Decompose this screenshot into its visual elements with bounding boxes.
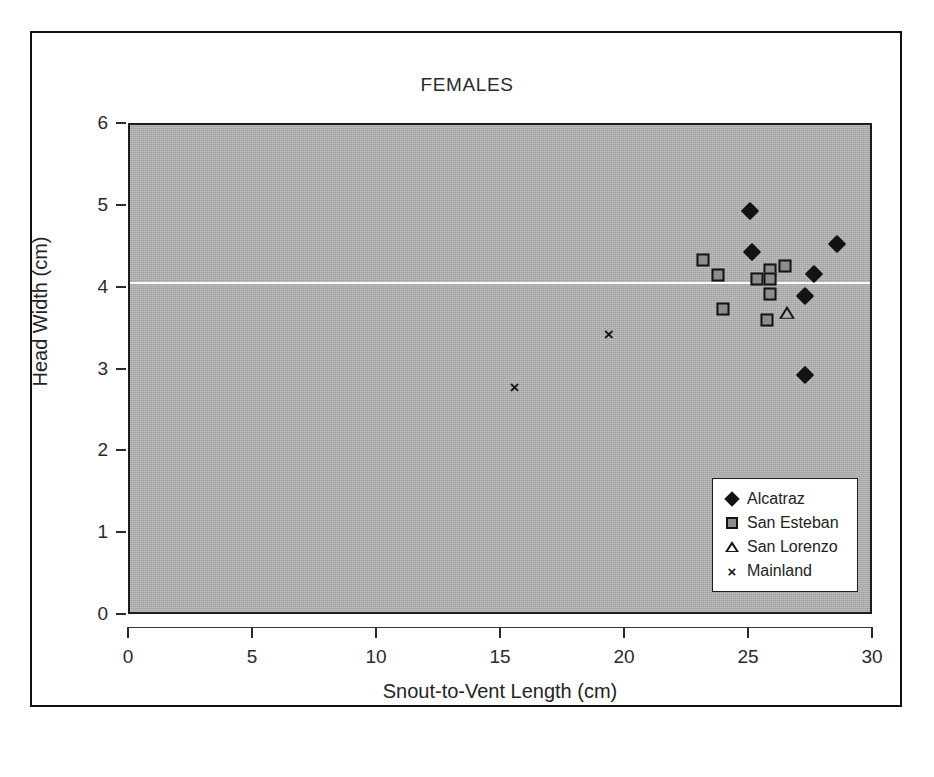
legend-swatch xyxy=(721,513,743,533)
legend-item: ×Mainland xyxy=(721,559,851,583)
y-tick-mark xyxy=(116,286,126,288)
legend-swatch xyxy=(721,537,743,557)
figure-root: FEMALES Head Width (cm) 0123456 ×× 05101… xyxy=(0,0,934,777)
y-tick-mark xyxy=(116,204,126,206)
x-tick-mark xyxy=(251,627,253,638)
y-tick-mark xyxy=(116,613,126,615)
legend-swatch xyxy=(721,489,743,509)
filled-diamond-marker-icon xyxy=(795,366,813,384)
gray-square-marker-icon xyxy=(696,254,709,267)
chart-legend: AlcatrazSan EstebanSan Lorenzo×Mainland xyxy=(712,478,858,592)
gray-square-marker-icon xyxy=(761,313,774,326)
gray-square-marker-icon xyxy=(778,259,791,272)
filled-diamond-marker-icon xyxy=(828,235,846,253)
filled-diamond-icon xyxy=(724,491,740,507)
legend-item: San Esteban xyxy=(721,511,851,535)
gray-square-marker-icon xyxy=(763,272,776,285)
x-tick-label: 15 xyxy=(470,646,530,668)
y-tick-label: 0 xyxy=(68,603,108,625)
y-tick-mark xyxy=(116,368,126,370)
y-tick-label: 1 xyxy=(68,521,108,543)
y-axis-label: Head Width (cm) xyxy=(29,152,52,472)
x-tick-label: 10 xyxy=(346,646,406,668)
y-tick-mark xyxy=(116,531,126,533)
x-tick-label: 5 xyxy=(222,646,282,668)
legend-item-label: Mainland xyxy=(747,562,812,580)
x-tick-mark xyxy=(747,627,749,638)
gray-square-marker-icon xyxy=(711,268,724,281)
legend-item-label: San Lorenzo xyxy=(747,538,838,556)
filled-diamond-marker-icon xyxy=(741,202,759,220)
legend-item: Alcatraz xyxy=(721,487,851,511)
y-tick-label: 4 xyxy=(68,276,108,298)
y-tick-label: 6 xyxy=(68,112,108,134)
filled-diamond-marker-icon xyxy=(795,287,813,305)
gray-square-icon xyxy=(726,517,738,529)
cross-x-marker-icon: × xyxy=(604,326,614,343)
x-tick-label: 30 xyxy=(842,646,902,668)
y-tick-label: 3 xyxy=(68,358,108,380)
cross-x-icon: × xyxy=(728,564,737,579)
filled-diamond-marker-icon xyxy=(805,265,823,283)
x-tick-mark xyxy=(871,627,873,638)
x-tick-mark xyxy=(499,627,501,638)
y-tick-label: 2 xyxy=(68,439,108,461)
x-tick-label: 25 xyxy=(718,646,778,668)
x-tick-mark xyxy=(375,627,377,638)
x-tick-mark xyxy=(127,627,129,638)
open-triangle-marker-icon xyxy=(779,306,795,319)
x-tick-label: 0 xyxy=(98,646,158,668)
x-tick-mark xyxy=(623,627,625,638)
legend-item-label: San Esteban xyxy=(747,514,839,532)
gray-square-marker-icon xyxy=(751,272,764,285)
legend-item: San Lorenzo xyxy=(721,535,851,559)
cross-x-marker-icon: × xyxy=(509,378,519,395)
legend-item-label: Alcatraz xyxy=(747,490,805,508)
y-tick-mark xyxy=(116,449,126,451)
x-axis-label: Snout-to-Vent Length (cm) xyxy=(128,680,872,703)
gray-square-marker-icon xyxy=(716,303,729,316)
legend-swatch: × xyxy=(721,561,743,581)
y-tick-label: 5 xyxy=(68,194,108,216)
x-tick-label: 20 xyxy=(594,646,654,668)
filled-diamond-marker-icon xyxy=(743,243,761,261)
y-tick-mark xyxy=(116,122,126,124)
gray-square-marker-icon xyxy=(763,287,776,300)
open-triangle-icon xyxy=(725,541,739,552)
chart-title: FEMALES xyxy=(0,74,934,96)
